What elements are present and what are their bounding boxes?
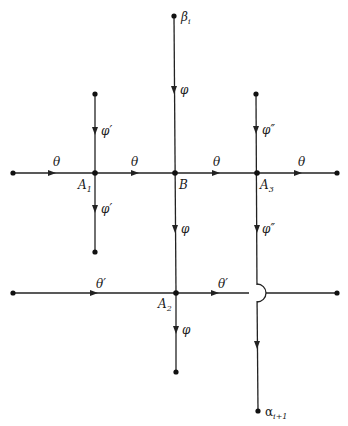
edge-labels: φ φ′ φ″ θ θ θ θ φ′ φ φ″ θ′ θ′ φ xyxy=(53,83,306,337)
node-B xyxy=(172,170,178,176)
edge-label-phi-prime: φ′ xyxy=(101,124,112,138)
node-alpha-i1 xyxy=(255,408,260,413)
node-right-row2 xyxy=(334,290,339,295)
edge-label-phi-double-prime: φ″ xyxy=(262,123,275,137)
arrow-right-icon xyxy=(212,170,220,176)
node-top-A3 xyxy=(253,91,258,96)
node-beta-i xyxy=(171,13,176,18)
edge-label-theta: θ xyxy=(53,155,61,169)
edge-label-phi: φ xyxy=(181,222,190,236)
label-alpha-i1: αi+1 xyxy=(265,405,287,421)
label-beta-i: βi xyxy=(180,10,191,26)
arrow-down-icon xyxy=(173,326,179,334)
edge-label-theta-prime: θ′ xyxy=(96,277,106,291)
arrow-down-icon xyxy=(253,126,259,134)
edge-label-theta: θ xyxy=(213,155,221,169)
edge-label-theta: θ xyxy=(298,155,306,169)
node-bottom-A2 xyxy=(173,369,178,374)
arrow-down-icon xyxy=(254,225,260,233)
node-A1 xyxy=(92,170,98,176)
arrow-down-icon xyxy=(92,127,98,135)
label-A3: A3 xyxy=(259,178,274,194)
edge-label-phi-double-prime: φ″ xyxy=(262,222,275,236)
edge-label-phi: φ xyxy=(180,83,189,97)
edge-A3-vertical-lower xyxy=(257,293,258,411)
node-A3 xyxy=(254,170,260,176)
edge-beta-to-A2 xyxy=(174,16,176,293)
node-left-row2 xyxy=(10,290,15,295)
arrow-down-icon xyxy=(92,205,98,213)
arrow-right-icon xyxy=(131,170,139,176)
node-A2 xyxy=(173,290,179,296)
arrow-right-icon xyxy=(294,170,302,176)
node-left-row1 xyxy=(10,170,15,175)
edge-label-phi: φ xyxy=(182,323,191,337)
edge-label-phi-prime: φ′ xyxy=(101,202,112,216)
edge-label-theta-prime: θ′ xyxy=(218,277,228,291)
label-A1: A1 xyxy=(77,178,92,194)
label-B: B xyxy=(178,178,188,192)
arrow-down-icon xyxy=(171,86,177,94)
edge-label-theta: θ xyxy=(131,155,139,169)
flow-diagram: βi A1 B A3 A2 αi+1 φ φ′ φ″ θ θ θ θ φ′ φ … xyxy=(0,0,348,426)
label-A2: A2 xyxy=(157,297,172,313)
node-bottom-A1 xyxy=(92,249,97,254)
arrow-right-icon xyxy=(48,170,56,176)
arrow-down-icon xyxy=(172,225,178,233)
node-right-row1 xyxy=(334,170,339,175)
edge-A3-vertical-upper xyxy=(256,94,257,293)
arrow-down-icon xyxy=(254,341,260,349)
node-top-A1 xyxy=(92,91,97,96)
